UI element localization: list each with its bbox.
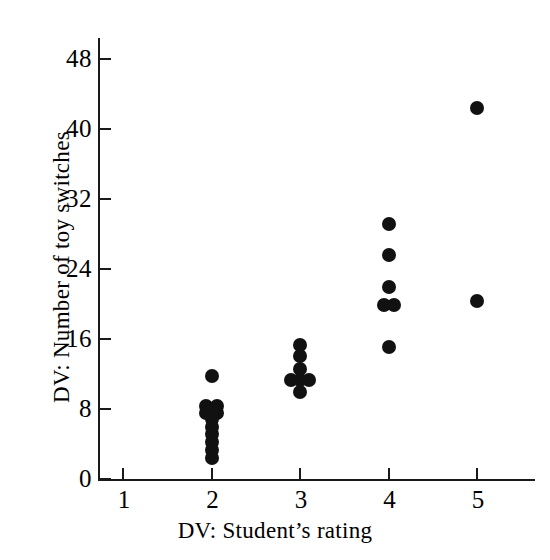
- x-tick-label-4: 4: [370, 486, 410, 514]
- data-point: [293, 349, 307, 363]
- y-tick-16: [100, 338, 111, 340]
- scatter-plot-figure: 081624324048 12345 DV: Student’s rating …: [0, 0, 550, 560]
- data-point: [382, 248, 396, 262]
- data-point: [205, 451, 219, 465]
- x-axis-line: [98, 479, 535, 481]
- data-point: [387, 298, 401, 312]
- data-point: [382, 280, 396, 294]
- data-point: [382, 217, 396, 231]
- x-tick-label-1: 1: [104, 486, 144, 514]
- x-tick-4: [388, 468, 390, 479]
- x-tick-label-3: 3: [281, 486, 321, 514]
- y-tick-8: [100, 408, 111, 410]
- y-tick-40: [100, 128, 111, 130]
- y-axis-title: DV: Number of toy switches: [49, 57, 75, 477]
- data-point: [293, 385, 307, 399]
- y-axis-line: [98, 38, 100, 481]
- x-tick-label-5: 5: [458, 486, 498, 514]
- x-tick-1: [122, 468, 124, 479]
- data-point: [382, 340, 396, 354]
- y-tick-48: [100, 58, 111, 60]
- x-tick-label-2: 2: [193, 486, 233, 514]
- data-point: [470, 294, 484, 308]
- x-tick-5: [476, 468, 478, 479]
- data-point: [302, 373, 316, 387]
- x-tick-2: [211, 468, 213, 479]
- data-point: [205, 369, 219, 383]
- y-tick-0: [100, 478, 111, 480]
- x-axis-title: DV: Student’s rating: [0, 518, 550, 544]
- y-tick-32: [100, 198, 111, 200]
- data-point: [470, 101, 484, 115]
- x-tick-3: [299, 468, 301, 479]
- y-tick-24: [100, 268, 111, 270]
